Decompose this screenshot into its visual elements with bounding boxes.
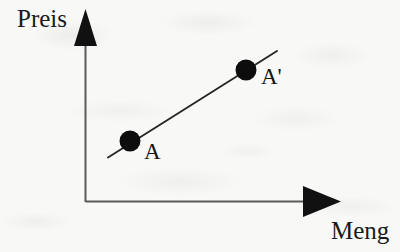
data-point-a-label: A	[144, 140, 161, 163]
y-axis-label: Preis	[17, 6, 67, 31]
price-quantity-diagram	[0, 0, 400, 252]
data-point-a	[120, 131, 141, 152]
arrow-up-icon	[74, 9, 97, 46]
data-point-a-prime	[236, 60, 257, 81]
arrow-right-icon	[303, 186, 341, 217]
data-point-a-prime-label: A'	[261, 65, 282, 88]
x-axis-label: Meng	[331, 218, 389, 243]
diagram-canvas: Preis Meng A A'	[0, 0, 400, 252]
